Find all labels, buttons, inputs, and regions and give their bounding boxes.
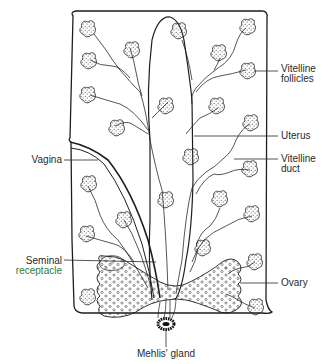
label-ovary: Ovary	[281, 278, 308, 288]
label-vagina: Vagina	[10, 155, 62, 165]
ovary	[97, 256, 242, 318]
diagram-stage: Vitelline follicles Uterus Vitelline duc…	[0, 0, 326, 364]
diagram-drawing	[0, 0, 326, 364]
label-mehlis-gland: Mehlis' gland	[126, 349, 206, 359]
vitelline-ducts-left	[86, 34, 168, 290]
label-uterus: Uterus	[281, 131, 310, 141]
label-seminal-receptacle-line2: receptacle	[4, 266, 62, 276]
label-vitelline-duct: Vitelline duct	[281, 154, 316, 174]
mehlis-gland	[158, 300, 176, 330]
label-vitelline-follicles: Vitelline follicles	[281, 64, 316, 84]
